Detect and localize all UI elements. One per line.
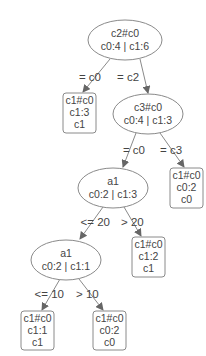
edge-label: = c2 xyxy=(117,71,139,83)
leaf-class: c1 xyxy=(143,262,154,274)
leaf-counts: c1:2 xyxy=(139,250,159,262)
decision-tree-diagram: = c0 = c2 = c0 = c3 <= 20 > 20 <= 10 > 1… xyxy=(0,0,206,356)
node-title: c2#c0 xyxy=(111,27,139,39)
edge-label: > 20 xyxy=(121,216,144,228)
leaf-class: c0 xyxy=(104,336,115,348)
leaf-counts: c1:1 xyxy=(28,324,48,336)
edge-label: = c0 xyxy=(123,144,145,156)
leaf-class: c0 xyxy=(181,193,192,205)
node-a1: a1 c0:2 | c1:3 xyxy=(78,168,148,208)
edge-label: <= 10 xyxy=(35,288,64,300)
node-c3: c3#c0 c0:4 | c1:3 xyxy=(113,94,183,134)
edge-label: = c0 xyxy=(79,71,101,83)
leaf-node: c1#c0 c0:2 c0 xyxy=(93,311,126,350)
leaf-node: c1#c0 c1:3 c1 xyxy=(63,93,96,133)
leaf-counts: c0:2 xyxy=(100,324,120,336)
leaf-node: c1#c0 c1:1 c1 xyxy=(21,311,54,350)
edge-label: <= 20 xyxy=(81,216,110,228)
node-counts: c0:4 | c1:6 xyxy=(101,40,149,52)
node-a1-sub: a1 c0:2 | c1:1 xyxy=(31,240,101,280)
node-counts: c0:4 | c1:3 xyxy=(124,114,172,126)
node-counts: c0:2 | c1:3 xyxy=(89,188,137,200)
node-c2-root: c2#c0 c0:4 | c1:6 xyxy=(88,20,162,60)
leaf-node: c1#c0 c1:2 c1 xyxy=(132,237,165,277)
edge-label: > 10 xyxy=(76,288,99,300)
leaf-title: c1#c0 xyxy=(95,312,123,324)
node-title: c3#c0 xyxy=(134,101,162,113)
leaf-title: c1#c0 xyxy=(172,169,200,181)
edge-root-to-c3 xyxy=(140,59,148,93)
leaf-title: c1#c0 xyxy=(134,238,162,250)
leaf-counts: c0:2 xyxy=(177,181,197,193)
leaf-class: c1 xyxy=(32,336,43,348)
node-counts: c0:2 | c1:1 xyxy=(42,260,90,272)
leaf-title: c1#c0 xyxy=(65,94,93,106)
node-title: a1 xyxy=(60,247,72,259)
leaf-title: c1#c0 xyxy=(23,312,51,324)
node-title: a1 xyxy=(107,175,119,187)
leaf-node: c1#c0 c0:2 c0 xyxy=(170,168,203,208)
edge-label: = c3 xyxy=(160,144,182,156)
leaf-counts: c1:3 xyxy=(70,106,90,118)
leaf-class: c1 xyxy=(74,118,85,130)
